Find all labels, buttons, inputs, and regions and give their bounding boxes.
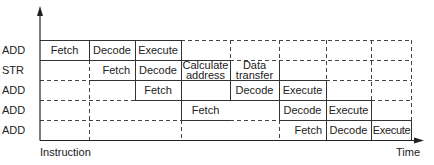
stage-cell: Execute	[326, 100, 371, 120]
stage-cell: Execute	[135, 40, 181, 60]
grid-lines	[0, 0, 434, 165]
stage-cell: Decode	[326, 120, 371, 140]
stage-cell: Fetch	[89, 60, 135, 80]
stage-cell: Fetch	[135, 80, 181, 100]
stage-cell: Execute	[371, 120, 412, 140]
stage-cell-calculate-address: Calculate address	[181, 60, 230, 80]
pipeline-diagram: ADD STR ADD ADD ADD Fetch Decode Execute…	[0, 0, 434, 165]
stage-text: transfer	[236, 70, 273, 80]
y-axis-arrow-icon	[37, 6, 43, 16]
stage-cell: Execute	[279, 80, 326, 100]
row-label: ADD	[2, 100, 39, 120]
stage-cell: Fetch	[181, 100, 230, 120]
stage-cell: Decode	[89, 40, 135, 60]
stage-cell: Decode	[135, 60, 181, 80]
y-axis-label: Instruction	[40, 146, 91, 158]
stage-cell: Fetch	[279, 120, 326, 140]
stage-cell-data-transfer: Data transfer	[230, 60, 279, 80]
stage-cell: Decode	[230, 80, 279, 100]
x-axis-arrow-icon	[414, 138, 424, 144]
stage-cell: Fetch	[40, 40, 89, 60]
row-label: ADD	[2, 40, 39, 60]
row-label: ADD	[2, 80, 39, 100]
stage-cell: Decode	[279, 100, 326, 120]
stage-text: address	[186, 70, 225, 80]
row-label: STR	[2, 60, 39, 80]
row-label: ADD	[2, 120, 39, 140]
x-axis-label: Time	[396, 146, 420, 158]
